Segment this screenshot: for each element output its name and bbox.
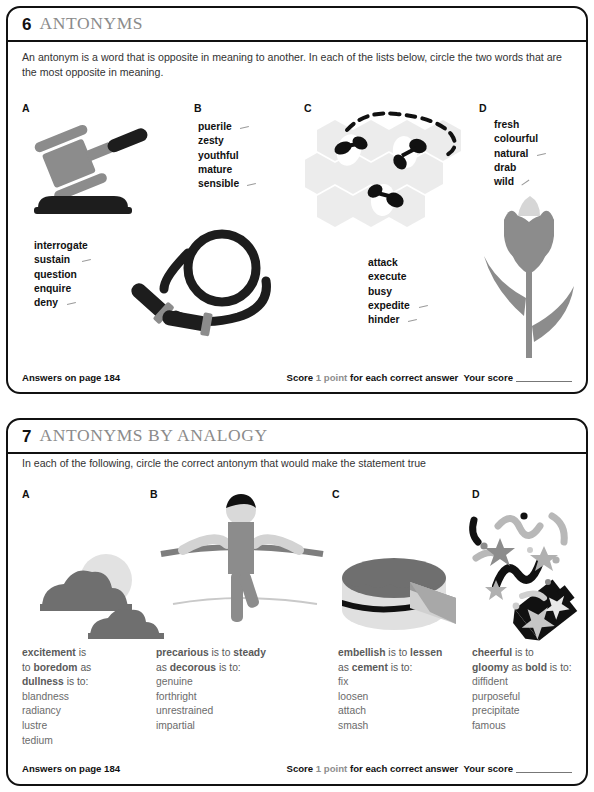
word-item[interactable]: execute [368,270,410,284]
analogy-stem: as cement is to: [338,661,442,676]
analogy-option[interactable]: purposeful [472,690,572,705]
score-line: Score 1 point for each correct answer Yo… [287,372,572,383]
puzzle-6-instruction: An antonym is a word that is opposite in… [22,50,562,80]
puzzle-7-analogy-d[interactable]: cheerful is to gloomy as bold is to: dif… [472,646,572,734]
score-line: Score 1 point for each correct answer Yo… [287,763,572,774]
analogy-stem: excitement is [22,646,91,661]
analogy-option[interactable]: famous [472,719,572,734]
analogy-stem: precarious is to steady [156,646,266,661]
puzzle-7-number: 7 [22,428,31,445]
word-item[interactable]: busy [368,285,410,299]
word-item[interactable]: wild [494,175,538,189]
puzzle-6-wordlist-b[interactable]: puerile zesty youthful mature sensible [198,120,239,191]
analogy-option[interactable]: loosen [338,690,442,705]
word-item[interactable]: fresh [494,118,538,132]
score-prefix: Score [287,763,314,774]
score-points: 1 point [316,763,347,774]
analogy-stem: embellish is to lessen [338,646,442,661]
score-suffix: for each correct answer [350,763,458,774]
analogy-stem: gloomy as bold is to: [472,661,572,676]
puzzle-7-header: 7 ANTONYMS BY ANALOGY [8,420,586,454]
your-score-blank[interactable] [516,772,572,773]
word-item[interactable]: enquire [34,282,88,296]
gavel-icon [22,108,150,218]
word-item[interactable]: expedite [368,299,410,313]
word-item[interactable]: colourful [494,132,538,146]
analogy-option[interactable]: fix [338,675,442,690]
word-item[interactable]: puerile [198,120,239,134]
your-score-label: Your score [464,372,513,383]
word-item[interactable]: mature [198,163,239,177]
party-popper-icon [460,498,590,643]
cake-slice-icon [338,538,468,648]
puzzle-6-wordlist-d[interactable]: fresh colourful natural drab wild [494,118,538,189]
puzzle-7-analogy-c[interactable]: embellish is to lessen as cement is to: … [338,646,442,734]
skipping-rope-icon [118,223,278,348]
analogy-option[interactable]: smash [338,719,442,734]
analogy-option[interactable]: lustre [22,719,91,734]
analogy-option[interactable]: radiancy [22,704,91,719]
sun-clouds-icon [28,540,168,640]
analogy-option[interactable]: unrestrained [156,704,266,719]
word-item[interactable]: hinder [368,313,410,327]
word-item[interactable]: sustain [34,253,88,267]
puzzle-6-column-letter-b: B [194,102,202,114]
word-item[interactable]: interrogate [34,239,88,253]
analogy-option[interactable]: precipitate [472,704,572,719]
puzzle-panel-6: 6 ANTONYMS An antonym is a word that is … [6,6,588,394]
tightrope-walker-icon [153,492,328,642]
analogy-option[interactable]: genuine [156,675,266,690]
analogy-option[interactable]: tedium [22,734,91,749]
puzzle-6-header: 6 ANTONYMS [8,8,586,42]
word-item[interactable]: attack [368,256,410,270]
puzzle-7-column-letter-c: C [332,488,340,500]
your-score-blank[interactable] [516,381,572,382]
analogy-stem: dullness is to: [22,675,91,690]
analogy-option[interactable]: blandness [22,690,91,705]
puzzle-7-footer: Answers on page 184 Score 1 point for ea… [8,763,586,783]
score-prefix: Score [287,372,314,383]
analogy-option[interactable]: diffident [472,675,572,690]
honeycomb-bees-icon [305,108,475,248]
score-suffix: for each correct answer [350,372,458,383]
analogy-option[interactable]: impartial [156,719,266,734]
word-item[interactable]: drab [494,161,538,175]
tulip-icon [474,190,594,362]
your-score-label: Your score [464,763,513,774]
word-item[interactable]: zesty [198,134,239,148]
puzzle-6-footer: Answers on page 184 Score 1 point for ea… [8,372,586,392]
analogy-option[interactable]: forthright [156,690,266,705]
analogy-stem: as decorous is to: [156,661,266,676]
answers-reference: Answers on page 184 [22,763,120,774]
analogy-stem: cheerful is to [472,646,572,661]
word-item[interactable]: natural [494,147,538,161]
answers-reference: Answers on page 184 [22,372,120,383]
workbook-page: 6 ANTONYMS An antonym is a word that is … [0,0,594,792]
puzzle-6-title: ANTONYMS [39,15,143,33]
puzzle-6-wordlist-c[interactable]: attack execute busy expedite hinder [368,256,410,327]
puzzle-7-title: ANTONYMS BY ANALOGY [39,427,267,445]
puzzle-7-column-letter-a: A [22,488,30,500]
puzzle-7-instruction: In each of the following, circle the cor… [22,456,562,471]
word-item[interactable]: youthful [198,149,239,163]
puzzle-7-analogy-a[interactable]: excitement is to boredom as dullness is … [22,646,91,748]
puzzle-6-number: 6 [22,16,31,33]
puzzle-6-column-letter-d: D [479,102,487,114]
analogy-option[interactable]: attach [338,704,442,719]
puzzle-panel-7: 7 ANTONYMS BY ANALOGY In each of the fol… [6,418,588,786]
word-item[interactable]: sensible [198,177,239,191]
analogy-stem: to boredom as [22,661,91,676]
word-item[interactable]: question [34,268,88,282]
word-item[interactable]: deny [34,296,88,310]
score-points: 1 point [316,372,347,383]
puzzle-7-analogy-b[interactable]: precarious is to steady as decorous is t… [156,646,266,734]
puzzle-6-wordlist-a[interactable]: interrogate sustain question enquire den… [34,239,88,310]
